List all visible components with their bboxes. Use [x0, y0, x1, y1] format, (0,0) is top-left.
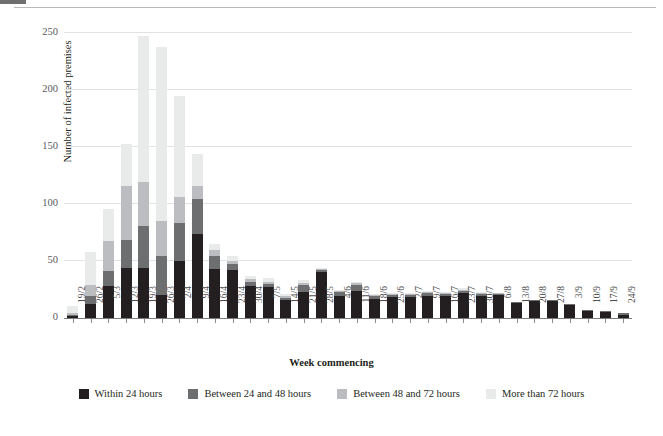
bar-segment [192, 154, 203, 186]
x-tick-label: 21/5 [308, 286, 318, 326]
x-tick-label: 25/6 [396, 286, 406, 326]
bar[interactable] [174, 96, 185, 318]
x-tick-label: 19/2 [77, 286, 87, 326]
x-tick-label: 19/3 [148, 286, 158, 326]
bar-segment [174, 96, 185, 197]
x-tick-label: 10/9 [592, 286, 602, 326]
x-tick-mark [250, 319, 251, 323]
x-tick-label: 26/3 [166, 286, 176, 326]
x-tick-mark [410, 319, 411, 323]
x-tick-mark [623, 319, 624, 323]
x-tick-label: 11/6 [361, 286, 371, 326]
bar-segment [156, 221, 167, 256]
x-tick-label: 30/7 [485, 286, 495, 326]
x-tick-mark [552, 319, 553, 323]
x-tick-label: 27/8 [556, 286, 566, 326]
bar-segment [174, 197, 185, 223]
x-tick-mark [428, 319, 429, 323]
chart-legend: Within 24 hoursBetween 24 and 48 hoursBe… [0, 388, 663, 399]
y-tick-label: 200 [32, 83, 58, 94]
legend-swatch-icon [486, 389, 496, 399]
x-tick-label: 24/9 [627, 286, 637, 326]
legend-item[interactable]: Between 24 and 48 hours [188, 388, 311, 399]
legend-label: Between 48 and 72 hours [353, 388, 460, 399]
x-tick-mark [215, 319, 216, 323]
page-top-rule [14, 7, 656, 8]
bar-segment [103, 209, 114, 241]
x-tick-mark [517, 319, 518, 323]
x-tick-mark [392, 319, 393, 323]
x-tick-mark [570, 319, 571, 323]
bar-segment [192, 199, 203, 233]
x-tick-mark [446, 319, 447, 323]
x-tick-label: 7/5 [272, 286, 282, 326]
legend-swatch-icon [337, 389, 347, 399]
legend-swatch-icon [79, 389, 89, 399]
x-tick-mark [357, 319, 358, 323]
x-tick-label: 17/9 [609, 286, 619, 326]
x-axis-title: Week commencing [0, 357, 663, 368]
bar-segment [85, 252, 96, 285]
legend-swatch-icon [188, 389, 198, 399]
legend-label: Between 24 and 48 hours [204, 388, 311, 399]
x-tick-label: 30/4 [254, 286, 264, 326]
x-tick-mark [233, 319, 234, 323]
x-tick-label: 9/7 [432, 286, 442, 326]
x-tick-label: 20/8 [538, 286, 548, 326]
bar-segment [138, 36, 149, 182]
x-tick-mark [321, 319, 322, 323]
x-tick-label: 9/4 [201, 286, 211, 326]
x-tick-label: 5/3 [112, 286, 122, 326]
plot-area [64, 33, 632, 318]
x-tick-mark [463, 319, 464, 323]
y-tick-label: 100 [32, 197, 58, 208]
bar-segment [103, 271, 114, 286]
legend-item[interactable]: Between 48 and 72 hours [337, 388, 460, 399]
x-tick-mark [126, 319, 127, 323]
page-corner-mark [0, 0, 26, 4]
x-tick-label: 16/4 [219, 286, 229, 326]
x-tick-mark [73, 319, 74, 323]
x-tick-mark [162, 319, 163, 323]
x-tick-mark [304, 319, 305, 323]
bar-segment [103, 241, 114, 272]
x-tick-label: 6/8 [503, 286, 513, 326]
legend-item[interactable]: Within 24 hours [79, 388, 163, 399]
x-tick-mark [588, 319, 589, 323]
x-tick-label: 28/5 [325, 286, 335, 326]
x-tick-mark [481, 319, 482, 323]
bar[interactable] [138, 36, 149, 318]
x-tick-label: 23/4 [237, 286, 247, 326]
chart-page: Number of infected premises 050100150200… [0, 0, 663, 436]
x-tick-label: 16/7 [450, 286, 460, 326]
x-tick-mark [268, 319, 269, 323]
x-tick-mark [197, 319, 198, 323]
legend-item[interactable]: More than 72 hours [486, 388, 585, 399]
x-tick-label: 2/7 [414, 286, 424, 326]
x-tick-mark [91, 319, 92, 323]
y-tick-label: 150 [32, 140, 58, 151]
bar-segment [192, 186, 203, 200]
x-tick-label: 26/2 [95, 286, 105, 326]
y-tick-label: 250 [32, 26, 58, 37]
bar-segment [138, 226, 149, 268]
x-tick-mark [534, 319, 535, 323]
bar-segment [209, 250, 220, 257]
x-tick-mark [144, 319, 145, 323]
x-tick-label: 13/8 [521, 286, 531, 326]
bar-segment [138, 182, 149, 225]
bar[interactable] [156, 47, 167, 318]
bar-segment [121, 240, 132, 267]
x-tick-label: 3/9 [574, 286, 584, 326]
gridline [64, 32, 632, 33]
x-tick-label: 23/7 [467, 286, 477, 326]
legend-label: Within 24 hours [95, 388, 163, 399]
x-tick-label: 12/3 [130, 286, 140, 326]
x-tick-mark [375, 319, 376, 323]
bar-segment [156, 47, 167, 221]
y-tick-label: 0 [32, 311, 58, 322]
x-tick-mark [179, 319, 180, 323]
bar-segment [121, 144, 132, 186]
bar-segment [121, 186, 132, 241]
x-tick-label: 4/6 [343, 286, 353, 326]
